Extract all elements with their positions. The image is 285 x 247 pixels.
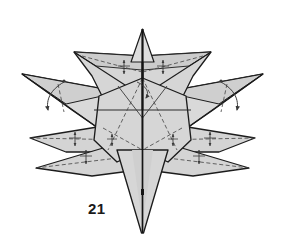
center-axis-notch (141, 189, 144, 195)
curved-arrow-upper-right-tail (219, 79, 222, 82)
curved-arrow-upper-left-tail (62, 79, 65, 82)
origami-diagram (0, 0, 285, 247)
origami-figure-page: 21 (0, 0, 285, 247)
step-number-label: 21 (88, 201, 106, 216)
